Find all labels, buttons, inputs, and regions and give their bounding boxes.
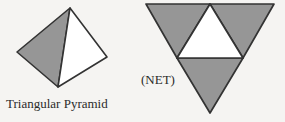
figure-stage: Triangular Pyramid (NET) bbox=[0, 0, 285, 122]
pyramid-caption-label: Triangular Pyramid bbox=[6, 96, 108, 111]
net-caption-label: (NET) bbox=[141, 72, 175, 87]
geometry-figure-svg: Triangular Pyramid (NET) bbox=[0, 0, 285, 122]
